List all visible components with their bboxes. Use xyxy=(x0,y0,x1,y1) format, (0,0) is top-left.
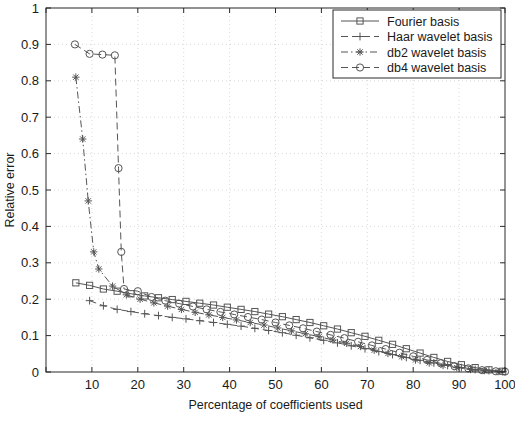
chart-figure: 00.10.20.30.40.50.60.70.80.9110203040506… xyxy=(0,0,515,422)
y-axis-tick-label: 1 xyxy=(32,1,39,16)
data-point-plus xyxy=(86,297,94,305)
legend-label-3: db4 wavelet basis xyxy=(387,61,486,75)
data-point-asterisk xyxy=(79,135,86,142)
x-axis-tick-label: 40 xyxy=(222,377,236,392)
data-point-asterisk xyxy=(85,197,92,204)
legend-label-1: Haar wavelet basis xyxy=(387,30,493,44)
series-line-2 xyxy=(76,77,498,371)
legend-label-2: db2 wavelet basis xyxy=(387,46,486,60)
y-axis-tick-label: 0.9 xyxy=(21,37,39,52)
y-axis-tick-label: 0.7 xyxy=(21,110,39,125)
data-point-asterisk xyxy=(90,248,97,255)
data-point-plus xyxy=(182,315,190,323)
data-point-asterisk xyxy=(95,265,102,272)
data-point-plus xyxy=(210,319,218,327)
x-axis-tick-label: 70 xyxy=(360,377,374,392)
data-point-plus xyxy=(168,314,176,322)
y-axis-tick-label: 0.6 xyxy=(21,146,39,161)
y-axis-tick-label: 0.5 xyxy=(21,183,39,198)
data-point-plus xyxy=(237,322,245,330)
x-axis-tick-label: 10 xyxy=(85,377,99,392)
legend-label-0: Fourier basis xyxy=(387,15,459,29)
data-point-plus xyxy=(99,302,107,310)
data-point-plus xyxy=(265,327,273,335)
data-point-plus xyxy=(155,312,163,320)
data-point-plus xyxy=(127,308,135,316)
x-axis-tick-label: 30 xyxy=(176,377,190,392)
x-axis-tick-label: 90 xyxy=(452,377,466,392)
y-axis-tick-label: 0.8 xyxy=(21,73,39,88)
data-point-asterisk xyxy=(136,296,143,303)
y-axis-title: Relative error xyxy=(3,152,17,227)
y-axis-tick-label: 0.1 xyxy=(21,328,39,343)
data-point-asterisk xyxy=(356,48,363,55)
data-point-plus xyxy=(141,310,149,318)
y-axis-tick-label: 0.3 xyxy=(21,255,39,270)
data-point-plus xyxy=(113,305,121,313)
data-point-circle xyxy=(396,349,403,356)
x-axis-tick-label: 80 xyxy=(406,377,420,392)
data-point-plus xyxy=(251,324,259,332)
x-axis-tick-label: 50 xyxy=(268,377,282,392)
data-point-plus xyxy=(223,320,231,328)
x-axis-tick-label: 20 xyxy=(131,377,145,392)
data-point-plus xyxy=(196,317,204,325)
relative-error-plot: 00.10.20.30.40.50.60.70.80.9110203040506… xyxy=(0,0,515,422)
x-axis-tick-label: 60 xyxy=(314,377,328,392)
y-axis-tick-label: 0.2 xyxy=(21,292,39,307)
x-axis-tick-label: 100 xyxy=(494,377,515,392)
y-axis-tick-label: 0 xyxy=(32,365,39,380)
data-point-asterisk xyxy=(72,73,79,80)
x-axis-title: Percentage of coefficients used xyxy=(188,398,362,412)
series-line-3 xyxy=(75,44,505,371)
y-axis-tick-label: 0.4 xyxy=(21,219,39,234)
data-point-asterisk xyxy=(109,282,116,289)
